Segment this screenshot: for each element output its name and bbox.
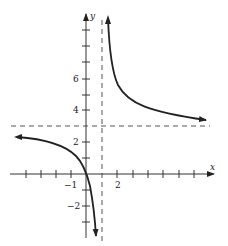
y-tick-label-minus2: −2 [67, 201, 80, 211]
right-branch-arrow-start [105, 15, 111, 24]
left-branch-curve [17, 137, 96, 236]
y-tick-label-2: 2 [73, 137, 79, 147]
left-branch-arrow-start [14, 134, 22, 140]
x-axis-label: x [210, 162, 215, 172]
y-tick-label-6: 6 [73, 74, 79, 84]
y-axis-label: y [89, 11, 96, 21]
y-tick-label-4: 4 [73, 105, 79, 115]
right-branch-curve [108, 18, 206, 120]
x-tick-label-2: 2 [115, 180, 121, 190]
x-tick-label-minus1: −1 [64, 180, 77, 190]
graph: y x −1 2 6 4 2 −2 [0, 0, 228, 246]
